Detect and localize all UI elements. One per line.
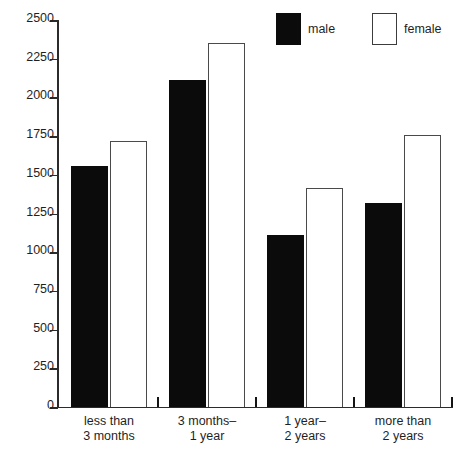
category-label-3: more than 2 years <box>354 414 452 444</box>
y-tick-label: 2250 <box>26 51 54 64</box>
x-axis-category-labels: less than 3 months3 months– 1 year1 year… <box>60 414 452 454</box>
category-label-2: 1 year– 2 years <box>256 414 354 444</box>
y-tick-label: 1500 <box>26 167 54 180</box>
bar-female-group-2 <box>306 188 343 407</box>
bar-male-group-2 <box>267 235 304 407</box>
bar-chart: male female 0250500750100012501500175020… <box>0 0 457 463</box>
y-tick-label: 750 <box>33 283 54 296</box>
plot-area: 02505007501000125015001750200022502500 <box>60 20 452 407</box>
category-label-0: less than 3 months <box>60 414 158 444</box>
group-separator-tick-2 <box>255 397 257 407</box>
group-separator-tick-4 <box>451 397 453 407</box>
category-label-1: 3 months– 1 year <box>158 414 256 444</box>
y-tick-label: 500 <box>33 322 54 335</box>
y-tick-label: 1250 <box>26 206 54 219</box>
bar-male-group-1 <box>169 80 206 407</box>
bar-male-group-0 <box>71 166 108 407</box>
group-separator-tick-1 <box>157 397 159 407</box>
y-tick-label: 1750 <box>26 128 54 141</box>
y-tick-label: 2500 <box>26 12 54 25</box>
y-tick-label: 0 <box>47 399 54 412</box>
bar-female-group-1 <box>208 43 245 407</box>
group-separator-tick-3 <box>353 397 355 407</box>
bar-male-group-3 <box>365 203 402 407</box>
y-tick-label: 2000 <box>26 89 54 102</box>
bar-female-group-3 <box>404 135 441 407</box>
bar-female-group-0 <box>110 141 147 407</box>
y-tick-label: 250 <box>33 360 54 373</box>
y-tick-label: 1000 <box>26 244 54 257</box>
